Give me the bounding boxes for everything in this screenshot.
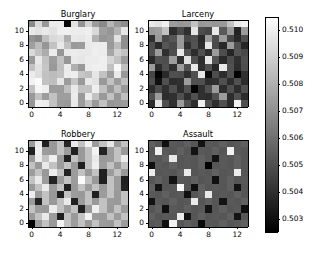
heatmap-cell xyxy=(57,49,64,56)
heatmap-cell xyxy=(219,191,226,198)
heatmap-cell xyxy=(234,71,241,78)
heatmap-cell xyxy=(169,176,176,183)
heatmap-cell xyxy=(49,205,56,212)
heatmap-cell xyxy=(107,176,114,183)
heatmap-cell xyxy=(169,162,176,169)
heatmap-panel-larceny: Larceny xyxy=(148,20,248,107)
heatmap-cell xyxy=(198,71,205,78)
heatmap-cell xyxy=(28,56,35,63)
heatmap-cell xyxy=(227,64,234,71)
heatmap-cell xyxy=(49,27,56,34)
heatmap-cell xyxy=(234,191,241,198)
heatmap-cell xyxy=(28,64,35,71)
heatmap-cell xyxy=(107,205,114,212)
heatmap-cell xyxy=(57,27,64,34)
heatmap-cell xyxy=(212,85,219,92)
heatmap-cell xyxy=(162,100,169,107)
heatmap-cell xyxy=(92,100,99,107)
heatmap-cell xyxy=(28,213,35,220)
heatmap-grid-burglary xyxy=(28,20,128,107)
heatmap-cell xyxy=(49,35,56,42)
y-tickmark xyxy=(146,194,148,195)
heatmap-cell xyxy=(212,162,219,169)
heatmap-cell xyxy=(64,85,71,92)
x-tick-label: 4 xyxy=(50,111,70,119)
heatmap-cell xyxy=(155,49,162,56)
heatmap-cell xyxy=(114,35,121,42)
heatmap-cell xyxy=(49,85,56,92)
heatmap-cell xyxy=(99,140,106,147)
y-tickmark xyxy=(26,151,28,152)
heatmap-cell xyxy=(191,147,198,154)
heatmap-cell xyxy=(114,93,121,100)
heatmap-cell xyxy=(184,71,191,78)
heatmap-cell xyxy=(234,162,241,169)
heatmap-cell xyxy=(227,169,234,176)
heatmap-cell xyxy=(42,100,49,107)
heatmap-cell xyxy=(42,71,49,78)
heatmap-cell xyxy=(64,205,71,212)
colorbar-tick-label: 0.505 xyxy=(282,161,303,169)
heatmap-cell xyxy=(148,162,155,169)
axis-spine-bottom-burglary xyxy=(28,107,128,108)
heatmap-cell xyxy=(148,176,155,183)
heatmap-cell xyxy=(155,20,162,27)
heatmap-cell xyxy=(241,155,248,162)
x-tick-label: 4 xyxy=(170,231,190,239)
heatmap-cell xyxy=(99,42,106,49)
heatmap-cell xyxy=(64,71,71,78)
heatmap-cell xyxy=(28,78,35,85)
panel-title-assault: Assault xyxy=(148,129,248,139)
heatmap-cell xyxy=(205,220,212,227)
heatmap-cell xyxy=(71,78,78,85)
colorbar-tick-label: 0.506 xyxy=(282,134,303,142)
heatmap-cell xyxy=(42,169,49,176)
heatmap-cell xyxy=(78,56,85,63)
colorbar-tickmark xyxy=(278,84,280,85)
heatmap-cell xyxy=(114,100,121,107)
heatmap-cell xyxy=(99,184,106,191)
heatmap-cell xyxy=(64,155,71,162)
heatmap-cell xyxy=(35,140,42,147)
heatmap-cell xyxy=(241,169,248,176)
x-tick-label: 4 xyxy=(170,111,190,119)
heatmap-cell xyxy=(234,155,241,162)
heatmap-cell xyxy=(99,169,106,176)
heatmap-cell xyxy=(177,198,184,205)
heatmap-cell xyxy=(71,155,78,162)
heatmap-cell xyxy=(205,205,212,212)
y-tick-label: 0 xyxy=(123,219,144,227)
heatmap-cell xyxy=(92,78,99,85)
y-tickmark xyxy=(26,180,28,181)
heatmap-cell xyxy=(205,176,212,183)
heatmap-cell xyxy=(71,169,78,176)
heatmap-cell xyxy=(184,140,191,147)
heatmap-cell xyxy=(234,49,241,56)
y-tick-label: 2 xyxy=(123,85,144,93)
heatmap-cell xyxy=(114,49,121,56)
heatmap-cell xyxy=(177,56,184,63)
heatmap-cell xyxy=(191,71,198,78)
colorbar-frame-left xyxy=(265,17,266,232)
heatmap-cell xyxy=(85,162,92,169)
y-tick-label: 4 xyxy=(123,190,144,198)
heatmap-cell xyxy=(219,78,226,85)
heatmap-cell xyxy=(191,64,198,71)
heatmap-cell xyxy=(148,198,155,205)
heatmap-cell xyxy=(212,100,219,107)
y-tick-label: 8 xyxy=(3,161,24,169)
heatmap-cell xyxy=(177,184,184,191)
heatmap-cell xyxy=(99,64,106,71)
heatmap-cell xyxy=(78,42,85,49)
heatmap-cell xyxy=(57,71,64,78)
heatmap-cell xyxy=(107,198,114,205)
heatmap-cell xyxy=(205,71,212,78)
heatmap-cell xyxy=(205,27,212,34)
heatmap-cell xyxy=(85,220,92,227)
heatmap-cell xyxy=(227,155,234,162)
colorbar-tickmark xyxy=(278,138,280,139)
y-tick-label: 8 xyxy=(3,41,24,49)
heatmap-cell xyxy=(71,184,78,191)
y-tickmark xyxy=(26,209,28,210)
colorbar-tick-label: 0.510 xyxy=(282,26,303,34)
